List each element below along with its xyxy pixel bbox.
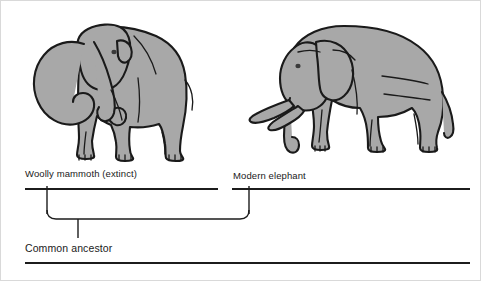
bracket-connector: [47, 210, 249, 219]
taxon-label-woolly-mammoth: Woolly mammoth (extinct): [25, 168, 137, 179]
mammoth-illustration: [16, 8, 206, 168]
page-border-top: [0, 0, 481, 1]
cladogram-page: Woolly mammoth (extinct) Modern elephant…: [0, 0, 481, 281]
elephant-illustration: [232, 10, 467, 165]
common-ancestor-rule: [25, 262, 470, 264]
taxon-label-modern-elephant: Modern elephant: [233, 170, 306, 181]
taxon-rule-modern-elephant: [232, 188, 470, 190]
elephant-eye: [295, 64, 300, 68]
ancestry-bracket: [36, 184, 266, 244]
mammoth-eye: [111, 50, 116, 54]
page-border-left: [0, 0, 1, 281]
